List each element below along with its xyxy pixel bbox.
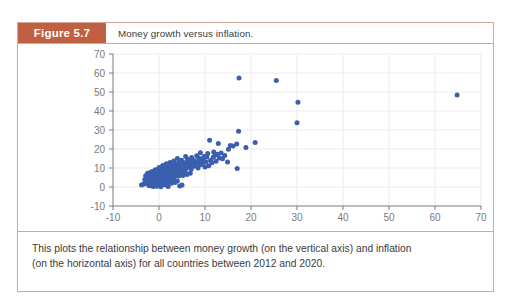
x-tick-label: 40 — [337, 212, 349, 223]
y-tick-label: 20 — [94, 144, 106, 155]
data-point — [215, 152, 220, 157]
data-point — [295, 120, 300, 125]
caption-line-1: This plots the relationship between mone… — [32, 241, 479, 256]
data-point — [237, 75, 242, 80]
data-point — [222, 153, 227, 158]
data-point — [164, 183, 169, 188]
data-point — [231, 143, 236, 148]
data-point — [158, 184, 163, 189]
data-point — [183, 154, 188, 159]
x-tick-label: 0 — [156, 212, 162, 223]
data-point — [243, 145, 248, 150]
figure-title: Money growth versus inflation. — [106, 23, 493, 43]
x-tick-label: 60 — [429, 212, 441, 223]
scatter-chart: -10010203040506070-10010203040506070 — [18, 44, 493, 230]
x-tick-label: 20 — [245, 212, 257, 223]
x-tick-label: 70 — [475, 212, 487, 223]
data-point — [139, 182, 144, 187]
x-tick-label: -10 — [106, 212, 121, 223]
data-point — [253, 140, 258, 145]
caption-line-2: (on the horizontal axis) for all countri… — [32, 256, 479, 271]
y-tick-label: 30 — [94, 125, 106, 136]
data-point — [226, 147, 231, 152]
data-point — [207, 138, 212, 143]
y-tick-label: 50 — [94, 87, 106, 98]
data-point — [455, 93, 460, 98]
figure-container: Figure 5.7 Money growth versus inflation… — [17, 22, 494, 292]
data-point — [236, 129, 241, 134]
figure-header: Figure 5.7 Money growth versus inflation… — [18, 23, 493, 44]
data-point — [225, 159, 230, 164]
y-tick-label: 40 — [94, 106, 106, 117]
x-tick-label: 30 — [291, 212, 303, 223]
plot-area: -10010203040506070-10010203040506070 — [18, 44, 493, 230]
x-axis-ticks: -10010203040506070 — [106, 206, 487, 223]
data-point — [295, 100, 300, 105]
data-point — [198, 150, 203, 155]
x-tick-label: 10 — [199, 212, 211, 223]
x-tick-label: 50 — [383, 212, 395, 223]
data-point — [235, 166, 240, 171]
y-tick-label: -10 — [91, 201, 106, 212]
scatter-series — [139, 75, 460, 189]
data-point — [177, 184, 182, 189]
figure-number-badge: Figure 5.7 — [18, 23, 106, 43]
data-point — [216, 141, 221, 146]
data-point — [274, 78, 279, 83]
figure-caption: This plots the relationship between mone… — [18, 231, 493, 291]
y-tick-label: 0 — [99, 182, 105, 193]
y-tick-label: 10 — [94, 163, 106, 174]
y-tick-label: 70 — [94, 49, 106, 60]
y-axis-ticks: -10010203040506070 — [91, 49, 113, 212]
y-tick-label: 60 — [94, 68, 106, 79]
data-point — [205, 151, 210, 156]
